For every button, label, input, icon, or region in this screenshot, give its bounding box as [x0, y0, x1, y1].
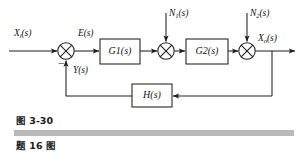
label-input-base: X [14, 28, 20, 38]
label-error-suffix: (s) [84, 28, 94, 38]
problem-title-caption: 题 16 图 [16, 141, 56, 151]
label-feedback-suffix: (s) [78, 65, 88, 75]
label-output-subscript: o [264, 37, 267, 44]
label-disturbance2-subscript: 2 [256, 12, 259, 19]
block-g1-suffix: (s) [121, 45, 132, 56]
label-error-signal: E(s) [78, 29, 93, 39]
label-output-base: X [258, 33, 264, 43]
block-g1-label: G1(s) [100, 46, 140, 56]
block-g2-base: G [196, 45, 203, 56]
block-g2-suffix: (s) [208, 45, 219, 56]
label-input-signal: Xi(s) [14, 29, 31, 39]
label-disturbance1-subscript: 1 [175, 12, 178, 19]
label-disturbance-1: N1(s) [169, 9, 188, 19]
label-output-signal: Xo(s) [258, 34, 277, 44]
label-input-subscript: i [20, 32, 22, 39]
label-input-suffix: (s) [22, 28, 32, 38]
figure-container: Xi(s) E(s) − Y(s) N1(s) N2(s) Xo(s) G1(s… [0, 0, 302, 157]
figure-number-caption: 图 3-30 [16, 116, 53, 126]
label-disturbance1-suffix: (s) [179, 8, 189, 18]
label-disturbance-2: N2(s) [250, 9, 269, 19]
block-h-label: H(s) [132, 90, 172, 100]
label-output-suffix: (s) [267, 33, 277, 43]
label-feedback-signal: Y(s) [73, 66, 88, 76]
label-disturbance2-suffix: (s) [260, 8, 270, 18]
block-g2-label: G2(s) [186, 46, 228, 56]
caption-rule [14, 130, 294, 136]
summing-junction-1-negative-sign: − [58, 58, 64, 69]
block-g1-base: G [109, 45, 116, 56]
